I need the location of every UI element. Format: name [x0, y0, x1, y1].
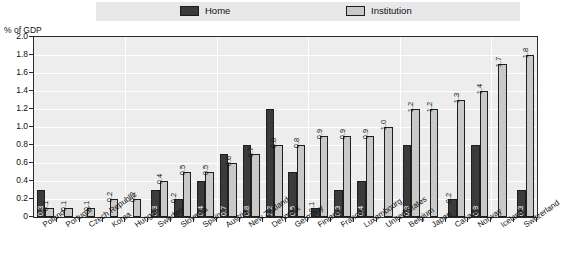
bar-institution[interactable]: 0.9 [366, 136, 375, 217]
bar-institution[interactable]: 0.6 [228, 163, 237, 217]
bar-group: 0.80.7 [240, 37, 263, 217]
y-tick-label: 0.6 [4, 157, 28, 167]
bar-value-label: 1.8 [522, 48, 530, 58]
bar-institution[interactable]: 1.2 [430, 109, 439, 217]
bar-group: 0.10.9 [308, 37, 331, 217]
bar-institution[interactable]: 1.8 [526, 55, 535, 217]
bar-group: 0.70.6 [217, 37, 240, 217]
bar-group: 0.1 [80, 37, 103, 217]
bar-institution[interactable]: 0.2 [133, 199, 142, 217]
bar-group: 0.40.9 [354, 37, 377, 217]
y-tick-label: 0 [4, 211, 28, 221]
bar-value-label: 0.9 [362, 129, 370, 139]
bar-value-label: 0.5 [202, 165, 210, 175]
y-tick-label: 2.0 [4, 31, 28, 41]
y-tick-label: 1.6 [4, 67, 28, 77]
bar-group: 1.2 [423, 37, 446, 217]
bar-value-label: 0.2 [106, 192, 114, 202]
bar-group: 0.30.9 [331, 37, 354, 217]
plot-area: 0.30.10.10.10.20.20.30.40.20.50.40.50.70… [33, 36, 538, 218]
bar-group: 0.40.5 [194, 37, 217, 217]
y-tick-label: 1.4 [4, 85, 28, 95]
bar-group: 0.20.5 [171, 37, 194, 217]
y-tick-label: 1.2 [4, 103, 28, 113]
bar-value-label: 1.4 [476, 84, 484, 94]
legend-swatch-institution-icon [346, 6, 365, 16]
bar-value-label: 0.2 [445, 193, 453, 203]
bar-institution[interactable]: 0.5 [183, 172, 192, 217]
y-tick-label: 1.8 [4, 49, 28, 59]
bar-value-label: 0.1 [42, 201, 50, 211]
bar-value-label: 1.7 [495, 57, 503, 67]
bar-value-label: 1.2 [407, 102, 415, 112]
bar-group: 1.20.8 [263, 37, 286, 217]
bar-value-label: 0.8 [293, 138, 301, 148]
bar-group: 1.7 [491, 37, 514, 217]
legend-item-home: Home [180, 6, 230, 16]
chart-legend: Home Institution [96, 2, 520, 21]
bar-value-label: 1.0 [380, 120, 388, 130]
y-tick-label: 0.4 [4, 175, 28, 185]
bar-group: 0.21.3 [446, 37, 469, 217]
bar-value-label: 0.4 [156, 174, 164, 184]
bar-group: 0.30.4 [148, 37, 171, 217]
legend-swatch-home-icon [180, 6, 199, 16]
bar-group: 0.31.8 [514, 37, 537, 217]
legend-label-institution: Institution [371, 6, 412, 16]
bar-group: 1.0 [377, 37, 400, 217]
bar-institution[interactable]: 1.4 [480, 91, 489, 217]
bar-value-label: 0.6 [225, 156, 233, 166]
bar-institution[interactable]: 1.3 [457, 100, 466, 217]
legend-item-institution: Institution [346, 6, 412, 16]
bar-value-label: 1.2 [426, 102, 434, 112]
bar-group: 0.2 [125, 37, 148, 217]
bar-home[interactable]: 1.2 [266, 109, 275, 217]
bar-institution[interactable]: 0.9 [343, 136, 352, 217]
bar-value-label: 0.2 [170, 193, 178, 203]
y-tick-label: 1.0 [4, 121, 28, 131]
bar-value-label: 0.8 [270, 138, 278, 148]
bar-group: 0.30.1 [34, 37, 57, 217]
y-tick-label: 0.2 [4, 193, 28, 203]
bar-group: 0.81.4 [468, 37, 491, 217]
bar-group: 0.1 [57, 37, 80, 217]
bar-value-label: 0.5 [179, 165, 187, 175]
bar-group: 0.81.2 [400, 37, 423, 217]
y-tick-label: 0.8 [4, 139, 28, 149]
bar-group: 0.50.8 [286, 37, 309, 217]
bar-value-label: 0.9 [316, 129, 324, 139]
bar-institution[interactable]: 0.7 [251, 154, 260, 217]
legend-label-home: Home [205, 6, 230, 16]
bar-institution[interactable]: 1.7 [498, 64, 507, 217]
bar-value-label: 0.9 [339, 129, 347, 139]
bar-group: 0.2 [103, 37, 126, 217]
bar-value-label: 0.7 [247, 147, 255, 157]
bar-value-label: 1.3 [453, 93, 461, 103]
